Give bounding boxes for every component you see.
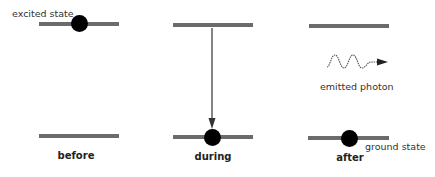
diagram-graphics: [0, 0, 435, 177]
photon-wave-icon: [327, 55, 388, 68]
transition-arrow-icon: [209, 28, 216, 129]
